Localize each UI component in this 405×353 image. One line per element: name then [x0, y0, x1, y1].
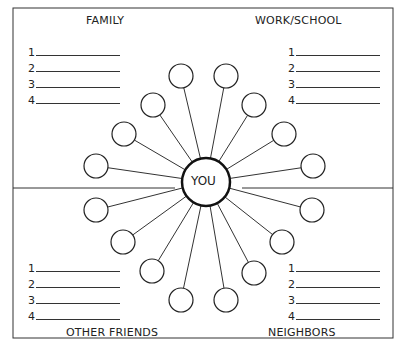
- spoke-line: [133, 196, 187, 235]
- entry-blank-line[interactable]: [296, 78, 380, 88]
- blank-entry-other-friends[interactable]: 3: [28, 294, 120, 307]
- spoke-line: [108, 168, 182, 179]
- blank-entry-work-school[interactable]: 2: [288, 62, 380, 75]
- entry-blank-line[interactable]: [36, 46, 120, 56]
- entry-blank-line[interactable]: [36, 310, 120, 320]
- contact-node-circle: [169, 64, 193, 88]
- contact-node-circle: [140, 259, 164, 283]
- contact-node-circle: [169, 288, 193, 312]
- entry-number: 1: [28, 46, 36, 59]
- contact-node-circle: [242, 261, 266, 285]
- blank-entry-other-friends[interactable]: 1: [28, 262, 120, 275]
- spoke-line: [229, 188, 300, 207]
- contact-node-circle: [214, 288, 238, 312]
- entry-blank-line[interactable]: [36, 262, 120, 272]
- blank-entry-work-school[interactable]: 4: [288, 94, 380, 107]
- quadrant-title-neighbors: NEIGHBORS: [268, 326, 336, 339]
- blank-entry-work-school[interactable]: 1: [288, 46, 380, 59]
- spoke-line: [183, 205, 201, 288]
- entry-blank-line[interactable]: [296, 294, 380, 304]
- spoke-line: [210, 206, 224, 289]
- blank-entry-other-friends[interactable]: 2: [28, 278, 120, 291]
- blank-entry-neighbors[interactable]: 3: [288, 294, 380, 307]
- contact-node-circle: [242, 93, 266, 117]
- spoke-line: [225, 197, 273, 235]
- blank-entry-work-school[interactable]: 3: [288, 78, 380, 91]
- entry-number: 3: [28, 294, 36, 307]
- contact-node-circle: [301, 154, 325, 178]
- blank-entry-neighbors[interactable]: 2: [288, 278, 380, 291]
- entry-blank-line[interactable]: [36, 78, 120, 88]
- entry-blank-line[interactable]: [36, 294, 120, 304]
- entry-number: 1: [28, 262, 36, 275]
- contact-node-circle: [141, 93, 165, 117]
- contact-node-circle: [214, 64, 238, 88]
- spoke-line: [160, 115, 193, 162]
- blank-entry-family[interactable]: 2: [28, 62, 120, 75]
- entry-number: 4: [288, 94, 296, 107]
- entry-blank-line[interactable]: [36, 62, 120, 72]
- spoke-line: [134, 140, 185, 170]
- center-you-label: YOU: [191, 174, 216, 188]
- quadrant-title-family: FAMILY: [86, 14, 124, 27]
- quadrant-title-work-school: WORK/SCHOOL: [255, 14, 342, 27]
- spoke-line: [158, 203, 193, 261]
- entry-number: 4: [28, 94, 36, 107]
- spoke-line: [108, 188, 183, 207]
- contact-node-circle: [84, 198, 108, 222]
- contact-node-circle: [111, 230, 135, 254]
- entry-number: 4: [288, 310, 296, 323]
- blank-entry-family[interactable]: 3: [28, 78, 120, 91]
- entry-blank-line[interactable]: [296, 94, 380, 104]
- entry-blank-line[interactable]: [296, 46, 380, 56]
- entry-number: 2: [288, 278, 296, 291]
- entry-blank-line[interactable]: [296, 262, 380, 272]
- entry-number: 2: [288, 62, 296, 75]
- spoke-line: [230, 168, 301, 179]
- contact-node-circle: [112, 122, 136, 146]
- contact-node-circle: [272, 122, 296, 146]
- entry-number: 1: [288, 262, 296, 275]
- contact-node-circle: [84, 154, 108, 178]
- contact-node-circle: [300, 198, 324, 222]
- entry-blank-line[interactable]: [36, 278, 120, 288]
- entry-number: 3: [28, 78, 36, 91]
- blank-entry-other-friends[interactable]: 4: [28, 310, 120, 323]
- entry-number: 3: [288, 294, 296, 307]
- spoke-line: [184, 88, 201, 159]
- entry-number: 1: [288, 46, 296, 59]
- blank-entry-family[interactable]: 4: [28, 94, 120, 107]
- blank-entry-neighbors[interactable]: 4: [288, 310, 380, 323]
- entry-number: 3: [288, 78, 296, 91]
- entry-blank-line[interactable]: [296, 278, 380, 288]
- entry-number: 2: [28, 278, 36, 291]
- entry-number: 2: [28, 62, 36, 75]
- spoke-line: [226, 140, 273, 169]
- spoke-line: [219, 115, 248, 161]
- entry-blank-line[interactable]: [296, 62, 380, 72]
- entry-blank-line[interactable]: [296, 310, 380, 320]
- quadrant-title-other-friends: OTHER FRIENDS: [66, 326, 158, 339]
- contact-node-circle: [270, 230, 294, 254]
- blank-entry-family[interactable]: 1: [28, 46, 120, 59]
- entry-number: 4: [28, 310, 36, 323]
- entry-blank-line[interactable]: [36, 94, 120, 104]
- blank-entry-neighbors[interactable]: 1: [288, 262, 380, 275]
- spoke-line: [210, 88, 223, 159]
